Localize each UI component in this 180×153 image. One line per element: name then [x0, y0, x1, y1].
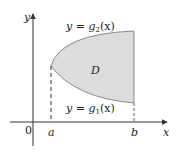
origin-label: 0: [25, 124, 32, 137]
y-axis-label: y: [23, 11, 31, 24]
region-label: D: [90, 64, 100, 77]
tick-a-label: a: [48, 126, 55, 139]
upper-curve-label: y = g2(x): [65, 20, 115, 34]
lower-curve-label: y = g1(x): [65, 102, 115, 116]
region-diagram: y x 0 a b D y = g2(x) y = g1(x): [0, 0, 180, 153]
x-axis-label: x: [163, 126, 170, 139]
tick-b-label: b: [131, 126, 138, 139]
